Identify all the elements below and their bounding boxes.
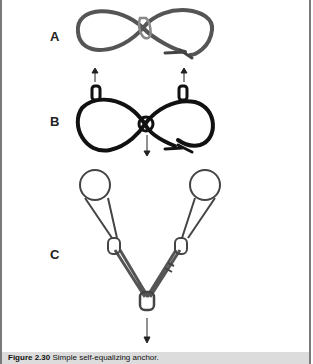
panel-label-a: A bbox=[50, 29, 59, 44]
arrow-up-icon bbox=[92, 68, 187, 82]
figure-number: Figure 2.30 bbox=[8, 353, 50, 362]
figure-illustration bbox=[0, 0, 313, 352]
panel-label-c: C bbox=[50, 247, 59, 262]
caption-text: Simple self-equalizing anchor. bbox=[52, 353, 158, 362]
arrow-down-icon bbox=[144, 135, 150, 156]
figure-caption: Figure 2.30 Simple self-equalizing ancho… bbox=[8, 353, 159, 362]
panel-c-anchors-icon bbox=[80, 170, 220, 310]
panel-label-b: B bbox=[50, 114, 59, 129]
panel-b-sling-icon bbox=[78, 100, 213, 152]
load-arrow-down-icon bbox=[144, 318, 150, 343]
